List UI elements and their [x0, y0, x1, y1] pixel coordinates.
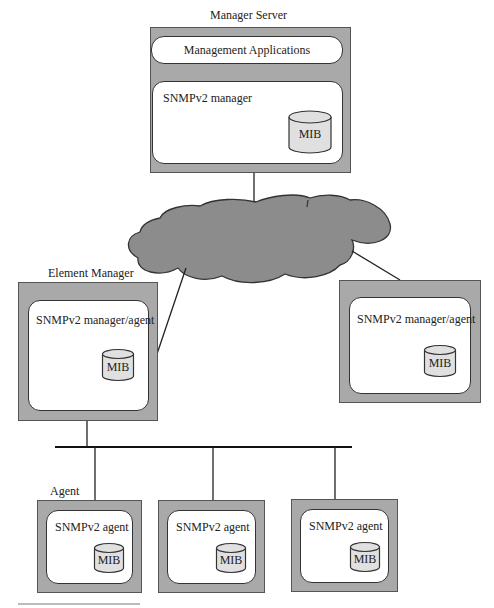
manager-server-label: Manager Server: [210, 8, 287, 23]
mib-label: MIB: [93, 553, 125, 568]
snmpv2-agent-label: SNMPv2 agent: [309, 519, 383, 534]
element-manager-label: Element Manager: [48, 266, 134, 281]
snmpv2-agent-label: SNMPv2 agent: [176, 520, 250, 535]
peer-manager-box: SNMPv2 manager/agent MIB: [339, 280, 481, 403]
mib-database-icon: MIB: [287, 109, 333, 155]
snmpv2-manager-label: SNMPv2 manager: [163, 91, 252, 106]
snmpv2-agent-label: SNMPv2 agent: [55, 520, 129, 535]
mib-database-icon: MIB: [101, 348, 135, 382]
mib-database-icon: MIB: [423, 344, 457, 378]
snmpv2-agent-box: SNMPv2 agent MIB: [300, 509, 389, 583]
mib-label: MIB: [287, 127, 333, 142]
snmpv2-agent-box: SNMPv2 agent MIB: [46, 510, 133, 584]
element-manager-box: SNMPv2 manager/agent MIB: [18, 282, 158, 421]
mib-label: MIB: [349, 552, 381, 567]
snmpv2-manager-agent-label: SNMPv2 manager/agent: [357, 312, 475, 327]
agent-box-3: SNMPv2 agent MIB: [291, 499, 398, 592]
mib-database-icon: MIB: [93, 542, 125, 574]
mib-database-icon: MIB: [215, 542, 247, 574]
agent-group-label: Agent: [50, 484, 79, 499]
snmpv2-manager-agent-box: SNMPv2 manager/agent MIB: [349, 297, 471, 394]
mib-label: MIB: [423, 356, 457, 371]
agent-box-2: SNMPv2 agent MIB: [158, 500, 265, 593]
management-applications-box: Management Applications: [151, 36, 343, 64]
snmpv2-manager-agent-label: SNMPv2 manager/agent: [36, 313, 154, 328]
snmpv2-manager-box: SNMPv2 manager MIB: [152, 81, 343, 164]
snmpv2-agent-box: SNMPv2 agent MIB: [167, 510, 256, 584]
snmpv2-manager-agent-box: SNMPv2 manager/agent MIB: [28, 300, 149, 411]
manager-server-box: Management Applications SNMPv2 manager M…: [150, 27, 351, 173]
mib-database-icon: MIB: [349, 541, 381, 573]
agent-box-1: SNMPv2 agent MIB: [37, 500, 142, 593]
network-cloud: [128, 195, 390, 283]
mib-label: MIB: [101, 360, 135, 375]
mib-label: MIB: [215, 553, 247, 568]
